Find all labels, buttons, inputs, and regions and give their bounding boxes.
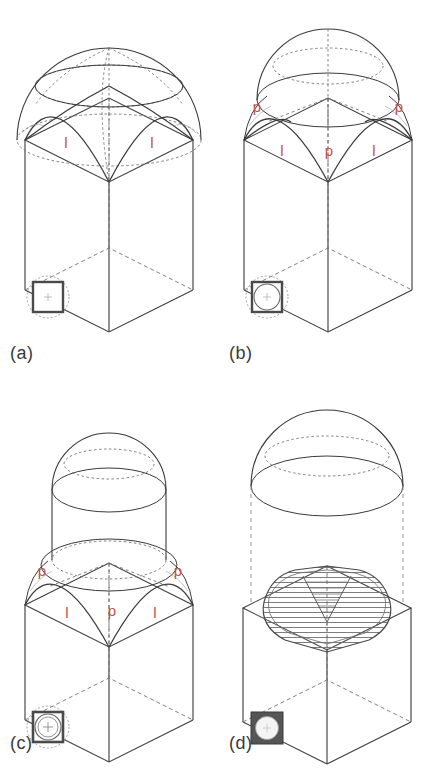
upper-dome-parallel [64, 449, 154, 479]
dome-meridian-front [102, 48, 109, 182]
plan-inset-b [246, 276, 288, 318]
upper-dome-base-ellipse [52, 468, 166, 512]
panel-b-drawing: p p l p l [219, 0, 437, 390]
ridge-hidden-left [267, 98, 328, 122]
label-l-left: l [65, 604, 68, 621]
label-l-left: l [280, 142, 283, 159]
pendentive-arch-right [328, 119, 412, 182]
panel-a-caption: (a) [10, 343, 34, 364]
label-l-right: l [150, 134, 153, 151]
label-p-center: p [108, 602, 116, 619]
label-p-upper-right: p [395, 98, 403, 115]
label-l-left: l [64, 134, 67, 151]
plan-inset-a [27, 276, 69, 318]
panel-a-drawing: l l [0, 0, 218, 390]
panel-d-caption: (d) [229, 733, 253, 754]
pendentive-edge-left-back [25, 86, 109, 140]
plan-inset-d [251, 712, 283, 744]
dome-meridian-right [109, 48, 183, 105]
panel-d: (d) [219, 390, 437, 780]
ridge-hidden-right [109, 563, 170, 587]
pendentive-arch-left [244, 119, 328, 182]
ridge-hidden-right [328, 98, 389, 122]
dome-meridian-left [35, 48, 109, 105]
panel-d-drawing [219, 390, 437, 780]
detached-dome-profile [251, 410, 403, 486]
pendentive-arch-right [109, 584, 193, 647]
label-l-right: l [372, 142, 375, 159]
panel-c-drawing: p p l p l [0, 390, 218, 780]
panel-a: l l (a) [0, 0, 218, 390]
label-p-center: p [325, 142, 333, 159]
pendentive-edge-right-back [109, 86, 193, 140]
upper-dome-profile [52, 433, 166, 490]
ridge-hidden-left [48, 563, 109, 587]
label-p-upper-left: p [38, 562, 46, 579]
pendentive-hatch-region [263, 566, 391, 652]
label-p-upper-left: p [253, 98, 261, 115]
figure-root: l l (a) [0, 0, 437, 780]
plan-inset-c [27, 706, 69, 748]
panel-c: p p l p l (c) [0, 390, 218, 780]
panel-b: p p l p l (b) [219, 0, 437, 390]
label-l-right: l [153, 604, 156, 621]
panel-c-caption: (c) [10, 733, 33, 754]
panel-b-caption: (b) [229, 343, 253, 364]
label-p-upper-right: p [174, 562, 182, 579]
detached-dome-base-ellipse [251, 456, 403, 516]
